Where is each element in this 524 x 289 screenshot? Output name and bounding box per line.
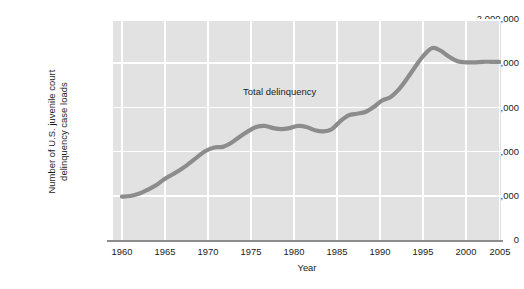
plot-area bbox=[113, 19, 501, 240]
series-annotation-total-delinquency: Total delinquency bbox=[243, 86, 316, 97]
y-axis-title: Number of U.S. juvenile court delinquenc… bbox=[46, 27, 69, 237]
x-tick-label-2005: 2005 bbox=[470, 246, 524, 257]
x-axis-title: Year bbox=[113, 262, 501, 273]
series-line-total-delinquency bbox=[122, 48, 500, 197]
series-total-delinquency bbox=[113, 19, 501, 240]
x-axis-line bbox=[107, 240, 503, 242]
